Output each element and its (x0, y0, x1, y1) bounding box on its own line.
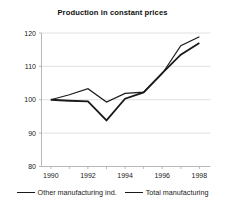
x-tick-label: 1994 (117, 172, 133, 179)
legend-entry-total-manufacturing: Total manufacturing (125, 189, 209, 196)
x-axis-tick-labels: 19901992199419961998 (43, 172, 207, 179)
legend-line-swatch-icon (125, 192, 143, 193)
legend-line-swatch-icon (17, 192, 35, 193)
y-tick-label: 100 (24, 96, 36, 103)
y-tick-label: 90 (28, 130, 36, 137)
plot-area: 8090100110120 19901992199419961998 (0, 0, 225, 211)
x-tick-label: 1990 (43, 172, 59, 179)
chart-container: Production in constant prices 8090100110… (0, 0, 225, 211)
legend-label-other-manufacturing: Other manufacturing ind. (38, 189, 117, 196)
x-tick-label: 1992 (80, 172, 96, 179)
legend-entry-other-manufacturing: Other manufacturing ind. (17, 189, 117, 196)
series-line (51, 43, 200, 120)
y-tick-label: 120 (24, 30, 36, 37)
x-tick-label: 1996 (154, 172, 170, 179)
series-line (51, 37, 200, 102)
x-tick-label: 1998 (192, 172, 208, 179)
gridlines (42, 33, 211, 133)
y-tick-label: 110 (25, 63, 36, 70)
y-tick-label: 80 (28, 163, 36, 170)
series-lines (51, 37, 200, 121)
chart-legend: Other manufacturing ind. Total manufactu… (0, 189, 225, 196)
legend-label-total-manufacturing: Total manufacturing (146, 189, 209, 196)
y-axis-tick-labels: 8090100110120 (24, 30, 41, 171)
